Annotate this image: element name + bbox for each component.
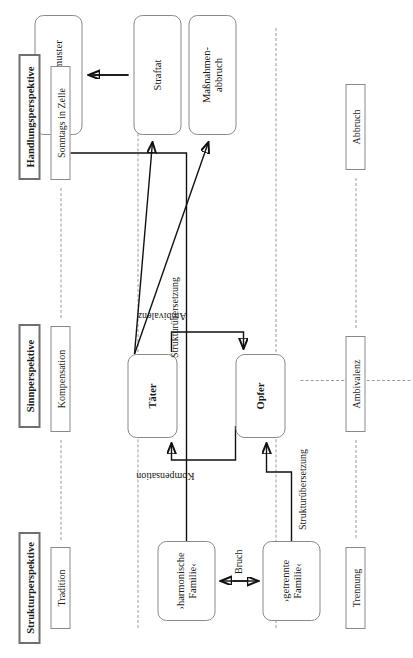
- edge-label-strukturuebersetzung-rechts: Strukturübersetzung: [296, 449, 307, 530]
- edge-label-bruch: Bruch: [232, 550, 243, 574]
- chip-label-tradition: Tradition: [55, 570, 66, 607]
- perspective-label-handlung: Handlungsperspektive: [24, 67, 35, 168]
- perspective-box-sinn: Sinnperspektive: [18, 324, 40, 428]
- node-line-getrennte-2: Familie‹: [291, 563, 302, 599]
- node-line-getrennte-1: ›getrennte: [279, 560, 290, 603]
- perspective-box-handlung: Handlungsperspektive: [18, 54, 40, 180]
- chip-trennung: Trennung: [345, 547, 365, 629]
- node-taeter: Täter: [127, 354, 177, 438]
- chip-label-kompensation: Kompensation: [55, 350, 66, 408]
- node-line-massnahmen-2: abbruch: [212, 58, 223, 92]
- node-harmonische-familie: ›harmonische Familie‹: [157, 541, 215, 621]
- node-label-straftat: Straftat: [151, 60, 163, 91]
- wire-kompensation: [171, 426, 235, 460]
- chip-label-trennung: Trennung: [350, 569, 361, 608]
- chip-sonntags-in-zelle: Sonntags in Zelle: [50, 66, 70, 180]
- node-opfer: Opfer: [235, 354, 285, 438]
- chip-label-sonntags-in-zelle: Sonntags in Zelle: [55, 88, 66, 158]
- wire-taeter-to-straftat: [134, 142, 152, 354]
- chip-ambivalenz: Ambivalenz: [345, 336, 365, 432]
- node-label-taeter: Täter: [146, 383, 158, 408]
- edge-label-ambivalenz: Ambivalenz: [137, 311, 186, 322]
- chip-kompensation: Kompensation: [50, 326, 70, 432]
- node-line-harmonische-1: ›harmonische: [174, 552, 185, 609]
- diagram-stage: Strukturperspektive Sinnperspektive Hand…: [0, 0, 413, 658]
- wire-strukturuebersetzung-rechts: [266, 443, 291, 541]
- node-getrennte-familie: ›getrennte Familie‹: [262, 541, 320, 621]
- chip-tradition: Tradition: [50, 547, 70, 629]
- perspective-box-struktur: Strukturperspektive: [18, 532, 40, 644]
- node-line-harmonische-2: Familie‹: [186, 563, 197, 599]
- perspective-label-sinn: Sinnperspektive: [24, 340, 35, 412]
- diagram-canvas: Strukturperspektive Sinnperspektive Hand…: [0, 0, 413, 658]
- edge-label-kompensation: Kompensation: [136, 471, 194, 482]
- chip-label-abbruch: Abbruch: [350, 110, 361, 145]
- node-massnahmenabbruch: Maßnahmen- abbruch: [188, 15, 236, 135]
- node-straftat: Straftat: [133, 15, 181, 135]
- wire-ambivalenz: [171, 332, 243, 352]
- node-label-opfer: Opfer: [254, 383, 266, 410]
- node-line-massnahmen-1: Maßnahmen-: [200, 47, 211, 103]
- perspective-label-struktur: Strukturperspektive: [24, 542, 35, 634]
- chip-abbruch: Abbruch: [345, 84, 365, 170]
- chip-label-ambivalenz: Ambivalenz: [350, 360, 361, 409]
